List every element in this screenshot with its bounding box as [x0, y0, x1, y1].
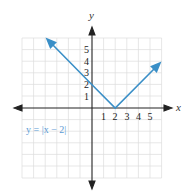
graph-canvas: x y 1 2 3 4 5 1 2 3 4 5 y = |x − 2| [0, 0, 190, 191]
y-axis-down-arrow-icon [89, 181, 95, 189]
y-tick-5: 5 [84, 44, 89, 55]
x-tick-4: 4 [136, 111, 141, 122]
y-axis-label: y [88, 9, 94, 21]
x-tick-1: 1 [101, 111, 106, 122]
x-axis-right-arrow-icon [164, 105, 172, 111]
x-axis-left-arrow-icon [14, 105, 22, 111]
y-axis-up-arrow-icon [89, 27, 95, 35]
y-tick-4: 4 [84, 56, 89, 67]
y-tick-labels: 1 2 3 4 5 [84, 44, 89, 102]
x-tick-5: 5 [148, 111, 153, 122]
x-axis-label: x [175, 101, 181, 113]
x-tick-3: 3 [125, 111, 130, 122]
y-tick-1: 1 [84, 91, 89, 102]
x-tick-2: 2 [113, 111, 118, 122]
x-tick-labels: 1 2 3 4 5 [101, 111, 153, 122]
equation-label: y = |x − 2| [26, 124, 66, 135]
